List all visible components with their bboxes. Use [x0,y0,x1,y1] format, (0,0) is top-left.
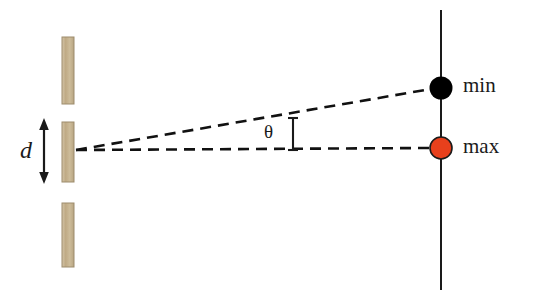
ray-group [76,89,431,150]
min-dot [430,77,453,100]
slit-separation-arrow [39,118,49,184]
max-dot [430,137,452,159]
ray-to-min [76,89,431,150]
max-label: max [463,136,499,157]
figure-canvas: min max d θ [0,0,544,299]
barrier-bar-bottom [62,203,74,267]
slit-separation-label: d [20,138,32,162]
angle-label: θ [264,122,273,141]
barrier-group [62,37,74,267]
ray-to-max [76,148,429,150]
barrier-bar-middle [62,122,74,182]
angle-caliper [288,118,298,150]
barrier-bar-top [62,37,74,104]
min-label: min [463,75,496,96]
